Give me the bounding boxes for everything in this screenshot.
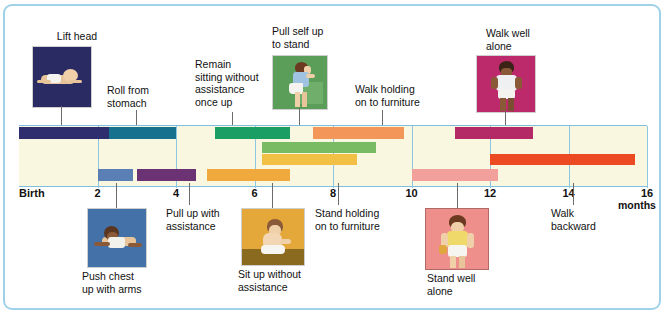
callout-label-stand-well-alone: Stand well alone <box>427 272 517 297</box>
timeline-bar-pull-up-with-assistance <box>137 169 196 181</box>
callout-label-roll-from-stomach: Roll from stomach <box>107 84 181 109</box>
timeline-bar-walk-well-alone <box>455 127 534 139</box>
callout-label-pull-up-assist: Pull up with assistance <box>166 207 252 232</box>
callout-label-sit-up-without: Sit up without assistance <box>238 268 333 293</box>
timeline-bar-walk-holding-on-to-furniture <box>262 142 376 153</box>
callout-label-walk-backward: Walk backward <box>551 207 621 232</box>
photo-pull-self-up <box>272 55 328 110</box>
timeline-plot-area <box>19 125 647 187</box>
timeline-bar-lift-head <box>19 127 109 139</box>
leader-line-stand-holding <box>338 183 339 205</box>
axis-tick-10: 10 <box>405 187 417 199</box>
timeline-bar-pull-self-up-to-stand <box>313 127 403 139</box>
axis-tick-4: 4 <box>173 187 179 199</box>
axis-units-label: months <box>618 199 656 211</box>
axis-tick-8: 8 <box>330 187 336 199</box>
photo-lift-head <box>32 46 92 108</box>
axis-tick-birth: Birth <box>19 187 45 199</box>
gridline-month-16 <box>647 126 648 188</box>
timeline-bar-sit-up-without-assistance <box>207 169 289 181</box>
timeline-bar-stand-holding-on-to-furniture <box>262 154 356 165</box>
callout-label-walk-holding: Walk holding on to furniture <box>355 83 451 108</box>
leader-line-sit-up-without <box>272 183 273 208</box>
photo-stand-well-alone <box>425 208 489 270</box>
leader-line-pull-up-assist <box>189 183 190 205</box>
callout-label-walk-well-alone: Walk well alone <box>486 27 566 52</box>
callout-label-stand-holding: Stand holding on to furniture <box>315 207 413 232</box>
timeline-axis: Birth months 246810121416 <box>0 187 666 209</box>
timeline-bar-push-chest-up-with-arms <box>98 169 133 181</box>
axis-tick-16: 16 <box>641 187 653 199</box>
callout-label-push-chest-up: Push chest up with arms <box>82 270 172 295</box>
timeline-bar-roll-from-stomach <box>109 127 176 139</box>
axis-tick-2: 2 <box>94 187 100 199</box>
timeline-bar-remain-sitting-without-assistance-once-up <box>215 127 290 139</box>
axis-tick-6: 6 <box>251 187 257 199</box>
leader-line-walk-backward <box>573 183 574 205</box>
axis-tick-12: 12 <box>484 187 496 199</box>
milestones-timeline-figure: Lift head Roll from stomach Remain sitti… <box>0 0 666 316</box>
timeline-bar-stand-well-alone <box>412 169 498 181</box>
photo-walk-well-alone <box>476 55 536 113</box>
leader-line-push-chest-up <box>116 183 117 208</box>
leader-line-stand-well-alone <box>457 183 458 208</box>
photo-push-chest-up <box>87 208 147 268</box>
callout-label-remain-sitting: Remain sitting without assistance once u… <box>195 58 281 108</box>
timeline-bar-walk-backward <box>490 154 635 165</box>
callout-label-pull-self-up: Pull self up to stand <box>272 25 358 50</box>
callout-label-lift-head: Lift head <box>32 30 122 43</box>
photo-sit-up-without <box>241 208 305 266</box>
